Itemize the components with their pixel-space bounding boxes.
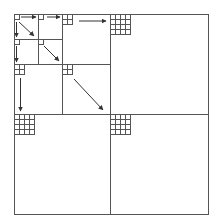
seed-square-1x1: [15, 15, 20, 20]
seed-grid-4x4: [111, 15, 131, 35]
arrow-diagonal-icon: [44, 46, 59, 61]
arrow-diagonal-icon: [74, 79, 103, 110]
arrow-diagonal-icon: [19, 22, 34, 36]
seed-grid-2x2: [15, 65, 25, 75]
seed-grid-4x4: [111, 115, 131, 135]
seed-square-1x1: [39, 40, 44, 45]
seed-square-1x1: [15, 40, 20, 45]
seed-grid-2x2: [63, 65, 73, 75]
seed-squares: [15, 15, 131, 135]
seed-grid-2x2: [63, 15, 73, 25]
quadtree-diagram: [0, 0, 220, 224]
seed-grid-4x4: [15, 115, 35, 135]
seed-square-1x1: [39, 15, 44, 20]
